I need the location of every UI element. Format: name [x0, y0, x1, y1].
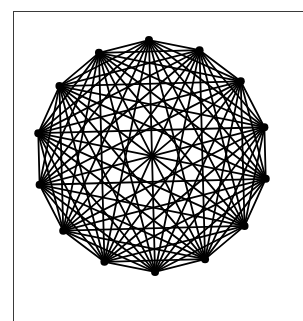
graph-vertex — [151, 268, 159, 276]
graph-vertex — [36, 181, 44, 189]
graph-vertex — [55, 82, 63, 90]
graph-vertex — [260, 123, 268, 131]
center-hub — [149, 153, 155, 159]
graph-vertex — [262, 175, 270, 183]
graph-vertex — [145, 36, 153, 44]
graph-vertex — [100, 258, 108, 266]
graph-vertex — [201, 255, 209, 263]
graph-vertex — [59, 227, 67, 235]
graph-vertex — [95, 49, 103, 57]
graph-vertex — [241, 222, 249, 230]
graph-vertex — [34, 129, 42, 137]
graph-vertex — [196, 46, 204, 54]
graph-vertex — [237, 77, 245, 85]
